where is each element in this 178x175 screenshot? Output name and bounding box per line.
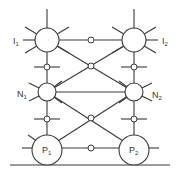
node-n1 — [38, 83, 56, 101]
vertical-links — [47, 40, 134, 148]
node-i2 — [122, 28, 146, 52]
label-i1: I1 — [13, 36, 20, 47]
node-n2 — [125, 83, 143, 101]
diagonal-links — [47, 40, 134, 148]
junction-nodes — [44, 37, 137, 151]
network-diagram: I1 I2 N1 N2 P1 P2 — [0, 0, 178, 175]
diagram-canvas: I1 I2 N1 N2 P1 P2 — [0, 0, 178, 175]
node-i1 — [35, 28, 59, 52]
label-n2: N2 — [152, 90, 163, 101]
label-n1: N1 — [17, 89, 28, 100]
label-i2: I2 — [162, 36, 169, 47]
horizontal-links — [47, 40, 134, 148]
